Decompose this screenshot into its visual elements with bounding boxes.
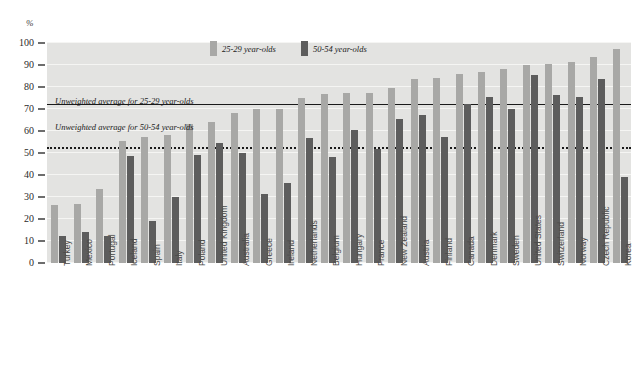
- y-axis-tick-mark: [38, 196, 45, 198]
- y-axis-tick-mark: [38, 174, 45, 176]
- x-axis-label: Mexico: [84, 239, 94, 266]
- y-axis-tick: 0: [0, 257, 47, 269]
- y-axis-tick-label: 0: [29, 257, 34, 269]
- bar-group: [478, 43, 493, 263]
- bar-group: [613, 43, 628, 263]
- bar: [411, 79, 418, 263]
- bar-group: [411, 43, 426, 263]
- x-axis-label: Canada: [466, 236, 476, 266]
- legend-label-50-54: 50-54 year-olds: [313, 44, 367, 54]
- y-axis-unit-label: %: [26, 18, 34, 28]
- bar-group: [321, 43, 336, 263]
- bar: [141, 137, 148, 264]
- y-axis-tick-label: 80: [24, 81, 34, 93]
- bar-group: [568, 43, 583, 263]
- bar: [164, 135, 171, 263]
- annot-25-29-line1: Unweighted average for 25-29 year-olds: [55, 96, 194, 106]
- bar: [321, 94, 328, 263]
- bar-group: [456, 43, 471, 263]
- bar-chart: % 0102030405060708090100 Unweighted aver…: [0, 0, 642, 365]
- bar-group: [276, 43, 291, 263]
- y-axis-tick-mark: [38, 108, 45, 110]
- legend: 25-29 year-olds 50-54 year-olds: [210, 41, 387, 56]
- bar: [523, 65, 530, 263]
- y-axis-tick-label: 20: [24, 213, 34, 225]
- y-axis-tick-label: 70: [24, 103, 34, 115]
- unweighted-average-25-29-label: Unweighted average for 25-29 year-olds: [55, 96, 194, 106]
- y-axis-tick-label: 100: [19, 37, 34, 49]
- x-axis-label: Ireland: [286, 240, 296, 266]
- x-axis-label: United States: [533, 215, 543, 266]
- x-axis-label: France: [376, 240, 386, 266]
- bar: [433, 78, 440, 263]
- annot-50-54-line1: Unweighted average: [55, 122, 126, 132]
- y-axis-tick: 60: [0, 125, 47, 137]
- bar: [276, 109, 283, 263]
- bar: [208, 122, 215, 263]
- x-axis-label: Greece: [264, 238, 274, 266]
- bar-group: [433, 43, 448, 263]
- x-axis-label: Norway: [578, 237, 588, 266]
- y-axis-tick: 10: [0, 235, 47, 247]
- bar-group: [141, 43, 156, 263]
- x-axis-label: Sweden: [511, 235, 521, 266]
- x-axis-label: Australia: [241, 233, 251, 266]
- y-axis-tick: 40: [0, 169, 47, 181]
- y-axis-tick: 70: [0, 103, 47, 115]
- y-axis-tick: 20: [0, 213, 47, 225]
- bar: [186, 124, 193, 263]
- bar: [500, 69, 507, 263]
- y-axis-tick-mark: [38, 130, 45, 132]
- y-axis-tick: 50: [0, 147, 47, 159]
- bar: [51, 205, 58, 263]
- x-axis-label: Turkey: [62, 240, 72, 266]
- bar: [253, 109, 260, 263]
- x-axis-label: New Zealand: [399, 216, 409, 266]
- y-axis-tick-label: 50: [24, 147, 34, 159]
- x-axis-label: Belgium: [331, 235, 341, 266]
- x-axis-label: Spain: [152, 244, 162, 266]
- y-axis-tick-label: 10: [24, 235, 34, 247]
- x-axis-label: Iceland: [129, 239, 139, 266]
- y-axis-tick-mark: [38, 42, 45, 44]
- legend-label-25-29: 25-29 year-olds: [222, 44, 276, 54]
- unweighted-average-50-54-label: Unweighted average for 50-54 year-olds: [55, 122, 194, 132]
- bar-group: [231, 43, 246, 263]
- x-axis-label: United Kingdom: [219, 206, 229, 266]
- bars-layer: [47, 43, 631, 263]
- y-axis-tick: 30: [0, 191, 47, 203]
- bar: [298, 98, 305, 263]
- y-axis-tick-mark: [38, 86, 45, 88]
- bar-group: [366, 43, 381, 263]
- bar-group: [500, 43, 515, 263]
- y-axis-tick: 80: [0, 81, 47, 93]
- y-axis-tick-mark: [38, 152, 45, 154]
- y-axis-tick-mark: [38, 218, 45, 220]
- bar: [613, 49, 620, 264]
- bar-group: [51, 43, 66, 263]
- bar-group: [119, 43, 134, 263]
- x-axis-label: Switzerland: [556, 222, 566, 266]
- legend-item-50-54: 50-54 year-olds: [301, 41, 367, 56]
- bar: [456, 74, 463, 263]
- y-axis: % 0102030405060708090100: [0, 0, 47, 300]
- x-axis-label: Netherlands: [309, 220, 319, 266]
- y-axis-tick-label: 30: [24, 191, 34, 203]
- x-axis-label: Poland: [197, 240, 207, 266]
- bar: [366, 93, 373, 264]
- x-axis-label: Portugal: [107, 234, 117, 266]
- bar: [478, 72, 485, 263]
- y-axis-tick-mark: [38, 64, 45, 66]
- x-axis-label: Finland: [444, 238, 454, 266]
- y-axis-tick-label: 40: [24, 169, 34, 181]
- bar-group: [253, 43, 268, 263]
- bar: [388, 88, 395, 263]
- annot-50-54-line2: for 50-54 year-olds: [128, 122, 194, 132]
- legend-item-25-29: 25-29 year-olds: [210, 41, 276, 56]
- bar: [343, 93, 350, 264]
- legend-swatch-25-29: [210, 41, 217, 56]
- x-axis-label: Hungary: [354, 234, 364, 266]
- bar: [590, 57, 597, 263]
- y-axis-tick: 100: [0, 37, 47, 49]
- bar: [231, 113, 238, 263]
